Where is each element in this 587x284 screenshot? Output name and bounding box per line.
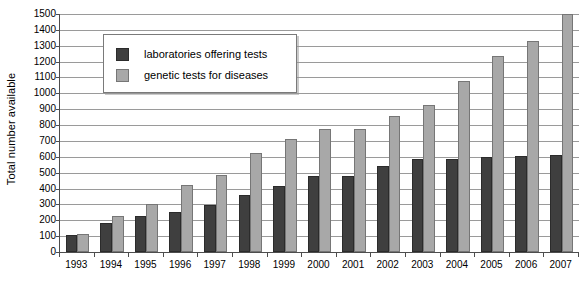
bar: [423, 105, 435, 252]
x-tick-label: 1996: [163, 258, 198, 272]
bar: [412, 159, 424, 252]
x-tick-mark: [336, 252, 337, 257]
chart-legend: laboratories offering testsgenetic tests…: [103, 34, 297, 93]
bar-group: [510, 14, 545, 252]
legend-item: laboratories offering tests: [116, 45, 267, 63]
bar-group: [544, 14, 579, 252]
y-tick-label: 900: [20, 104, 56, 114]
x-tick-label: 2002: [370, 258, 405, 272]
bar: [527, 41, 539, 252]
bar: [377, 166, 389, 252]
y-tick-label: 1000: [20, 88, 56, 98]
bar: [66, 235, 78, 252]
x-tick-mark: [163, 252, 164, 257]
bar: [492, 56, 504, 252]
y-tick-mark: [56, 125, 60, 126]
bar: [77, 234, 89, 252]
x-tick-label: 2007: [543, 258, 578, 272]
x-tick-mark: [267, 252, 268, 257]
bar: [146, 204, 158, 252]
y-tick-mark: [56, 109, 60, 110]
y-tick-label: 200: [20, 215, 56, 225]
x-tick-label: 2001: [336, 258, 371, 272]
bar: [250, 153, 262, 252]
bar-group: [60, 14, 95, 252]
bar: [354, 129, 366, 252]
x-tick-mark: [232, 252, 233, 257]
y-tick-mark: [56, 62, 60, 63]
y-tick-mark: [56, 141, 60, 142]
bar-group: [371, 14, 406, 252]
x-tick-mark: [301, 252, 302, 257]
y-axis-tick-labels: 0100200300400500600700800900100011001200…: [20, 14, 56, 252]
y-tick-label: 400: [20, 184, 56, 194]
y-tick-label: 1100: [20, 72, 56, 82]
x-tick-mark: [94, 252, 95, 257]
y-tick-label: 1300: [20, 41, 56, 51]
x-tick-label: 2004: [440, 258, 475, 272]
bar-group: [337, 14, 372, 252]
bar: [216, 175, 228, 252]
chart-screenshot: Total number available 01002003004005006…: [0, 0, 587, 284]
y-tick-mark: [56, 30, 60, 31]
bar-group: [441, 14, 476, 252]
legend-swatch-icon: [116, 69, 129, 82]
bar: [285, 139, 297, 252]
x-tick-mark: [370, 252, 371, 257]
y-axis-title-text: Total number available: [5, 73, 17, 185]
bar: [308, 176, 320, 252]
x-tick-label: 1993: [59, 258, 94, 272]
y-tick-mark: [56, 204, 60, 205]
y-tick-mark: [56, 14, 60, 15]
x-axis-tick-labels: 1993199419951996199719981999200020012002…: [59, 258, 578, 274]
x-tick-mark: [578, 252, 579, 257]
y-tick-mark: [56, 46, 60, 47]
bar-group: [302, 14, 337, 252]
bar: [204, 205, 216, 252]
bar: [342, 176, 354, 252]
y-tick-label: 700: [20, 136, 56, 146]
y-tick-label: 300: [20, 199, 56, 209]
y-tick-label: 500: [20, 168, 56, 178]
x-tick-label: 2006: [509, 258, 544, 272]
y-tick-mark: [56, 77, 60, 78]
y-tick-label: 600: [20, 152, 56, 162]
y-tick-mark: [56, 189, 60, 190]
y-tick-mark: [56, 252, 60, 253]
x-tick-label: 1999: [267, 258, 302, 272]
bar: [169, 212, 181, 252]
y-tick-label: 100: [20, 231, 56, 241]
x-tick-mark: [509, 252, 510, 257]
bar: [515, 156, 527, 252]
y-tick-mark: [56, 220, 60, 221]
bar: [100, 223, 112, 252]
bar: [458, 81, 470, 252]
bar: [239, 195, 251, 252]
y-tick-mark: [56, 236, 60, 237]
x-tick-mark: [405, 252, 406, 257]
bar: [481, 157, 493, 252]
bar: [562, 14, 574, 252]
x-tick-label: 2000: [301, 258, 336, 272]
legend-swatch-icon: [116, 48, 129, 61]
legend-item: genetic tests for diseases: [116, 66, 268, 84]
x-tick-label: 1995: [128, 258, 163, 272]
y-tick-label: 800: [20, 120, 56, 130]
legend-label: genetic tests for diseases: [144, 69, 268, 81]
x-tick-label: 1998: [232, 258, 267, 272]
bar: [446, 159, 458, 252]
x-axis-tick-marks: [59, 252, 578, 257]
y-tick-label: 0: [20, 247, 56, 257]
legend-label: laboratories offering tests: [144, 48, 267, 60]
x-tick-mark: [440, 252, 441, 257]
bar: [273, 186, 285, 252]
bar: [112, 216, 124, 252]
y-tick-mark: [56, 93, 60, 94]
x-tick-mark: [128, 252, 129, 257]
bar: [181, 185, 193, 252]
bar-group: [475, 14, 510, 252]
y-tick-label: 1500: [20, 9, 56, 19]
y-tick-label: 1400: [20, 25, 56, 35]
bar: [389, 116, 401, 252]
y-tick-mark: [56, 157, 60, 158]
